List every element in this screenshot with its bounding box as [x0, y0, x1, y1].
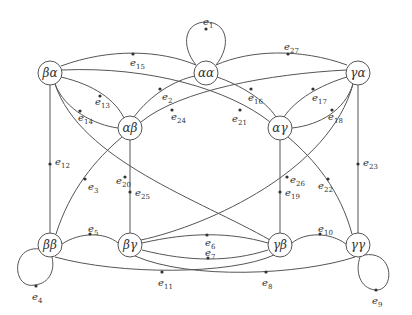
arrow-marker-e25 [128, 190, 131, 193]
node-gg: γγ [346, 233, 370, 257]
node-label: αβ [122, 121, 137, 135]
node-ab: αβ [118, 116, 142, 140]
edge-label-e19: e19 [285, 187, 300, 201]
edge-label-e26: e26 [290, 174, 305, 188]
node-label: αγ [272, 121, 288, 135]
node-bb: ββ [38, 233, 62, 257]
edge-label-e21: e21 [232, 113, 247, 127]
edge-e13 [61, 77, 124, 118]
arrow-marker-e9 [374, 288, 377, 291]
edge-e5 [62, 235, 118, 244]
node-label: βγ [122, 238, 138, 252]
node-label: ββ [42, 238, 57, 252]
arrow-marker-e17 [311, 87, 314, 90]
edge-label-e16: e16 [248, 92, 263, 106]
arrow-marker-e23 [356, 162, 359, 165]
edge-label-e15: e15 [130, 57, 145, 71]
edge-e9 [358, 255, 389, 290]
edge-label-e4: e4 [32, 291, 43, 305]
node-label: βα [41, 66, 57, 80]
edge-label-e22: e22 [318, 180, 333, 194]
edge-label-e2: e2 [162, 91, 172, 105]
edge-label-e1: e1 [203, 16, 213, 30]
node-label: γβ [273, 238, 287, 252]
arrow-marker-e15 [131, 52, 134, 55]
arrow-marker-e22 [326, 177, 329, 180]
node-label: γα [350, 66, 365, 80]
node-bg: βγ [118, 233, 142, 257]
arrow-marker-e8 [264, 270, 267, 273]
edge-label-e14: e14 [78, 112, 93, 126]
edge-e18 [292, 84, 353, 128]
arrow-marker-e12 [48, 162, 51, 165]
edge-label-e17: e17 [312, 92, 327, 106]
arrow-marker-e21 [238, 108, 241, 111]
arrow-marker-e11 [160, 270, 163, 273]
edge-label-e11: e11 [158, 277, 173, 291]
node-label: αα [198, 66, 214, 80]
edge-label-e12: e12 [55, 156, 70, 170]
edge-label-e23: e23 [363, 157, 378, 171]
graph-diagram: βαααγααβαγβββγγβγγ e1e2e3e4e5e6e7e8e9e10… [0, 0, 412, 315]
node-gb: γβ [268, 233, 292, 257]
edge-label-e24: e24 [171, 111, 186, 125]
arrow-marker-e26 [285, 175, 288, 178]
edge-label-e3: e3 [88, 181, 98, 195]
graph-svg: βαααγααβαγβββγγβγγ e1e2e3e4e5e6e7e8e9e10… [0, 0, 412, 315]
node-label: γγ [351, 238, 366, 252]
arrow-marker-e1 [204, 27, 207, 30]
edge-e26 [141, 84, 353, 240]
edge-label-e8: e8 [262, 277, 272, 291]
arrow-marker-e20 [123, 175, 126, 178]
edge-label-e25: e25 [135, 187, 150, 201]
edge-e15 [61, 53, 196, 66]
edge-e10 [292, 235, 346, 244]
edge-label-e18: e18 [328, 111, 343, 125]
node-ba: βα [38, 61, 62, 85]
arrow-marker-e3 [83, 177, 86, 180]
arrow-marker-e16 [249, 87, 252, 90]
edge-e11 [55, 255, 274, 270]
edge-e20 [55, 84, 270, 240]
arrow-marker-e19 [278, 190, 281, 193]
arrow-marker-e4 [34, 284, 37, 287]
node-ga: γα [346, 61, 370, 85]
edge-e27 [216, 53, 347, 65]
node-aa: αα [194, 61, 218, 85]
edge-label-e9: e9 [372, 295, 382, 309]
node-ag: αγ [268, 116, 292, 140]
